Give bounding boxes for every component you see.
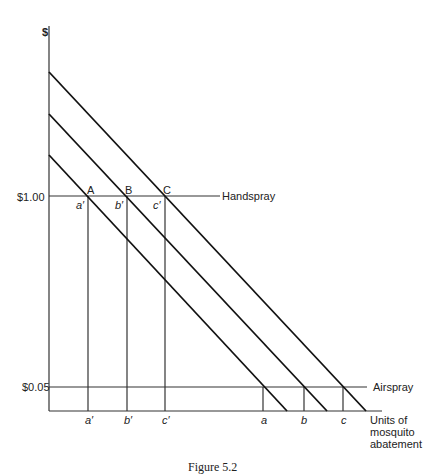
y-axis-label: $ <box>42 26 48 38</box>
x-tick-b: b <box>301 414 307 426</box>
handspray-label: Handspray <box>222 190 275 202</box>
x-axis-label-line2: mosquito <box>370 426 415 438</box>
point-label-A: A <box>87 184 94 196</box>
point-label-a-prime: a′ <box>76 199 84 211</box>
x-tick-c: c <box>341 414 347 426</box>
x-axis-label-line3: abatement <box>370 438 422 450</box>
point-label-c-prime: c′ <box>153 199 161 211</box>
x-tick-a: a <box>261 414 267 426</box>
point-label-C: C <box>163 184 171 196</box>
point-label-b-prime: b′ <box>115 199 123 211</box>
demand-curve-3 <box>49 72 366 411</box>
demand-curve-2 <box>49 114 327 411</box>
point-label-B: B <box>125 184 132 196</box>
x-axis-label-line1: Units of <box>370 414 407 426</box>
x-tick-b-prime: b′ <box>124 414 132 426</box>
x-tick-c-prime: c′ <box>162 414 170 426</box>
tick-label-0-05: $0.05 <box>22 381 50 393</box>
figure-caption: Figure 5.2 <box>188 461 237 473</box>
tick-label-1-00: $1.00 <box>17 191 45 203</box>
x-tick-a-prime: a′ <box>85 414 93 426</box>
airspray-label: Airspray <box>373 381 413 393</box>
